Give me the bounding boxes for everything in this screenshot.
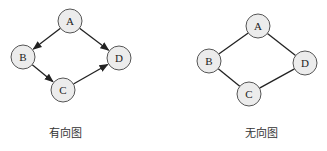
edge-a-d — [267, 33, 295, 55]
edge-b-c — [218, 69, 239, 87]
node-c: C — [237, 82, 261, 106]
node-label: B — [205, 55, 212, 67]
edge-c-d — [259, 69, 294, 88]
edge-a-d — [80, 28, 109, 50]
edge-a-b — [33, 28, 60, 49]
node-label: D — [115, 52, 123, 64]
node-label: C — [245, 88, 252, 100]
directed-graph: ABCD有向图 — [11, 9, 131, 140]
node-d: D — [107, 46, 131, 70]
node-b: B — [11, 45, 35, 69]
node-label: A — [66, 15, 74, 27]
node-label: A — [254, 20, 262, 32]
node-d: D — [293, 51, 317, 75]
edge-b-c — [32, 65, 53, 82]
node-label: B — [19, 51, 26, 63]
node-a: A — [246, 14, 270, 38]
node-label: D — [301, 57, 309, 69]
graph-diagrams: ABCD有向图 ABCD无向图 — [0, 0, 327, 151]
edge-a-b — [219, 33, 248, 54]
edge-c-d — [73, 64, 107, 84]
caption-undirected-graph: 无向图 — [245, 126, 278, 140]
node-a: A — [58, 9, 82, 33]
undirected-graph: ABCD无向图 — [197, 14, 317, 140]
node-label: C — [59, 84, 66, 96]
caption-directed-graph: 有向图 — [49, 126, 82, 140]
node-c: C — [51, 78, 75, 102]
node-b: B — [197, 49, 221, 73]
